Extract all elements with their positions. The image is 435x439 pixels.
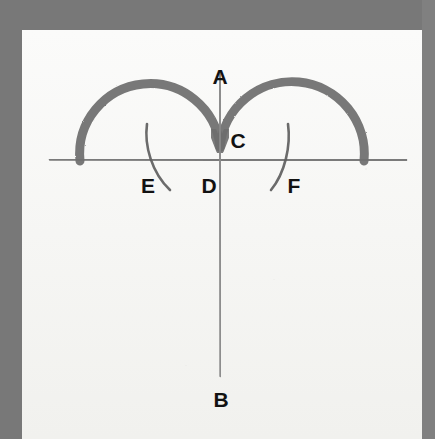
point-label-e: E bbox=[136, 175, 160, 196]
point-label-f: F bbox=[282, 175, 306, 196]
scanned-figure-page: A C E D F B bbox=[0, 0, 435, 439]
vertical-axis-line bbox=[220, 72, 221, 376]
point-label-b: B bbox=[209, 389, 233, 410]
point-label-a: A bbox=[208, 66, 232, 87]
left-semicircular-arc bbox=[80, 84, 220, 161]
horizontal-baseline bbox=[50, 160, 406, 161]
point-label-c: C bbox=[226, 130, 250, 151]
point-label-d: D bbox=[197, 175, 221, 196]
